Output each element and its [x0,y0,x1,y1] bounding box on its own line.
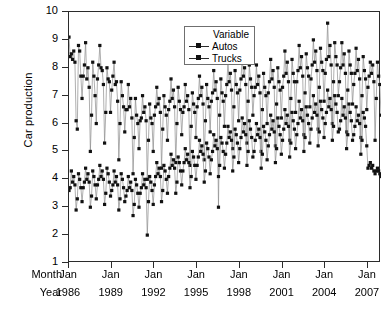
legend-entry-trucks: Trucks [189,52,250,64]
car-production-time-series-chart: Car production 12345678910 Variable Auto… [0,0,392,311]
y-axis-tick-label: 3 [18,199,58,211]
y-axis-tick-label: 7 [18,88,58,100]
y-axis-title: Car production [22,30,34,190]
y-axis-tick-label: 4 [18,171,58,183]
plot-area: Variable AutosTrucks [68,11,380,262]
legend-marker-icon [189,53,209,63]
y-axis-tick-label: 5 [18,143,58,155]
y-axis-tick-label: 10 [18,4,58,16]
y-axis-tick-label: 6 [18,116,58,128]
legend-label: Trucks [209,53,242,64]
x-axis-month-label: Jan [337,268,392,280]
legend-entry-autos: Autos [189,40,250,52]
legend-label: Autos [209,41,238,52]
y-axis-tick-label: 1 [18,255,58,267]
legend-title: Variable [189,29,250,40]
y-axis-tick-label: 2 [18,227,58,239]
y-axis-tick-label: 9 [18,32,58,44]
y-axis-tick-label: 8 [18,60,58,72]
legend-entries: AutosTrucks [189,40,250,64]
x-axis-year-label: 2007 [337,286,392,298]
legend-marker-icon [189,41,209,51]
chart-legend: Variable AutosTrucks [184,26,255,65]
